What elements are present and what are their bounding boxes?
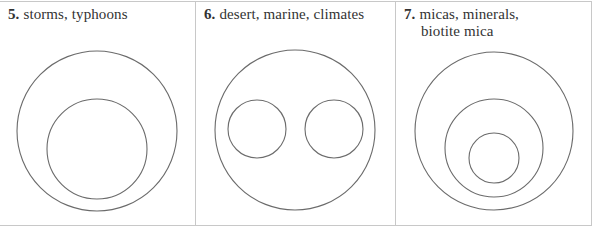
circle-shape xyxy=(445,99,543,197)
circle-shape xyxy=(305,100,363,158)
circle-shape xyxy=(415,52,573,210)
venn-circles xyxy=(0,0,596,231)
circle-shape xyxy=(17,51,177,211)
circle-shape xyxy=(469,133,519,183)
circle-shape xyxy=(215,50,375,210)
circle-shape xyxy=(47,99,147,199)
circle-shape xyxy=(228,100,286,158)
